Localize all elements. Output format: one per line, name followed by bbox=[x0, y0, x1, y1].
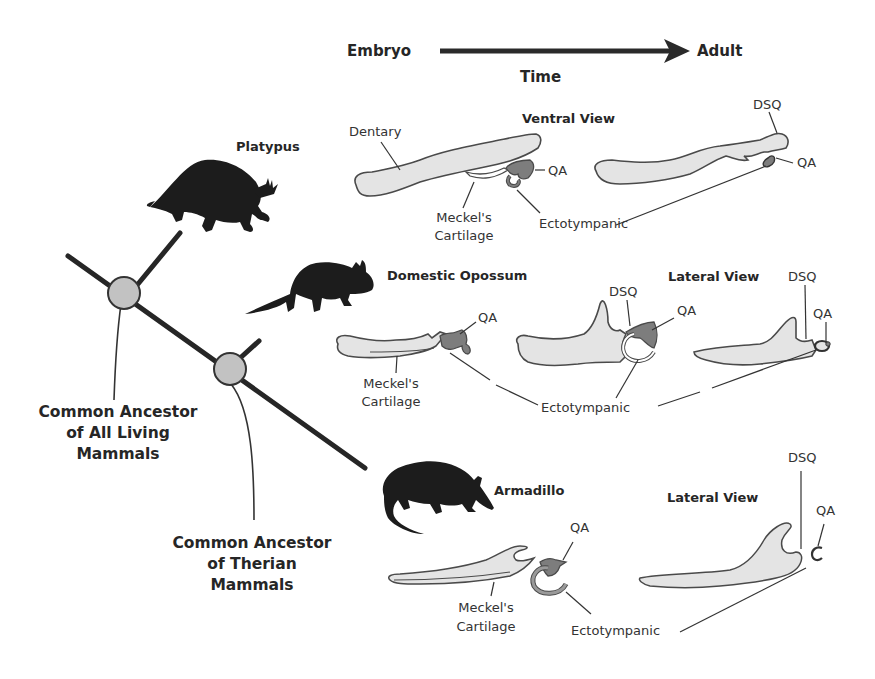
label-ectotympanic-armadillo: Ectotympanic bbox=[571, 624, 660, 637]
label-dsq-opossum-adult: DSQ bbox=[788, 270, 817, 283]
ancestor-label-mammalia: Common Ancestor of All Living Mammals bbox=[18, 402, 218, 465]
ancestor-mammalia-line-1: Common Ancestor bbox=[18, 402, 218, 423]
label-dsq-platypus: DSQ bbox=[753, 98, 782, 111]
diagram-graphics bbox=[0, 0, 875, 679]
label-meckels-opossum-2: Cartilage bbox=[353, 395, 429, 408]
ancestor-theria-line-3: Mammals bbox=[152, 575, 352, 596]
label-ectotympanic-opossum: Ectotympanic bbox=[541, 401, 630, 414]
taxon-label-platypus: Platypus bbox=[236, 140, 300, 153]
label-meckels-armadillo-2: Cartilage bbox=[448, 620, 524, 633]
label-dentary: Dentary bbox=[349, 125, 401, 138]
label-qa-armadillo-adult: QA bbox=[816, 504, 835, 517]
label-qa-armadillo-embryo: QA bbox=[570, 521, 589, 534]
label-meckels-armadillo-1: Meckel's bbox=[448, 601, 524, 614]
label-meckels-opossum-1: Meckel's bbox=[353, 377, 429, 390]
timeline-end-label: Adult bbox=[697, 44, 742, 59]
armadillo-embryo-jaw bbox=[389, 546, 566, 593]
view-label-lateral-armadillo: Lateral View bbox=[667, 491, 758, 504]
label-qa-platypus-embryo: QA bbox=[548, 164, 567, 177]
label-qa-opossum-mid: QA bbox=[677, 304, 696, 317]
ancestor-mammalia-line-2: of All Living bbox=[18, 423, 218, 444]
armadillo-adult-jaw bbox=[639, 523, 822, 587]
platypus-adult-dentary bbox=[595, 133, 788, 184]
timeline-axis-label: Time bbox=[520, 70, 561, 85]
timeline-start-label: Embryo bbox=[347, 44, 411, 59]
node-mammalia bbox=[108, 277, 140, 309]
label-ectotympanic-platypus: Ectotympanic bbox=[539, 217, 628, 230]
ancestor-mammalia-line-3: Mammals bbox=[18, 444, 218, 465]
ear-evolution-figure: Embryo Adult Time Platypus Ventral View … bbox=[0, 0, 875, 679]
opossum-adult-jaw bbox=[694, 318, 830, 365]
opossum-silhouette-icon bbox=[245, 260, 374, 314]
opossum-embryo-leaders bbox=[396, 322, 538, 405]
ancestor-theria-line-1: Common Ancestor bbox=[152, 533, 352, 554]
label-qa-platypus-adult: QA bbox=[797, 156, 816, 169]
taxon-label-armadillo: Armadillo bbox=[494, 484, 564, 497]
label-meckels-platypus-1: Meckel's bbox=[426, 211, 502, 224]
taxon-label-opossum: Domestic Opossum bbox=[387, 269, 527, 282]
ancestor-label-theria: Common Ancestor of Therian Mammals bbox=[152, 533, 352, 596]
armadillo-silhouette-icon bbox=[383, 461, 494, 534]
ancestor-theria-line-2: of Therian bbox=[152, 554, 352, 575]
platypus-embryo-dentary bbox=[355, 134, 541, 196]
view-label-lateral-opossum: Lateral View bbox=[668, 270, 759, 283]
platypus-silhouette-icon bbox=[147, 160, 278, 232]
time-arrow bbox=[440, 39, 690, 63]
view-label-ventral: Ventral View bbox=[522, 112, 615, 125]
label-qa-opossum-embryo: QA bbox=[478, 311, 497, 324]
node-theria bbox=[214, 353, 246, 385]
opossum-mid-jaw bbox=[517, 301, 657, 365]
label-meckels-platypus-2: Cartilage bbox=[426, 229, 502, 242]
label-dsq-opossum-mid: DSQ bbox=[609, 285, 638, 298]
label-qa-opossum-adult: QA bbox=[813, 307, 832, 320]
label-dsq-armadillo-adult: DSQ bbox=[788, 451, 817, 464]
